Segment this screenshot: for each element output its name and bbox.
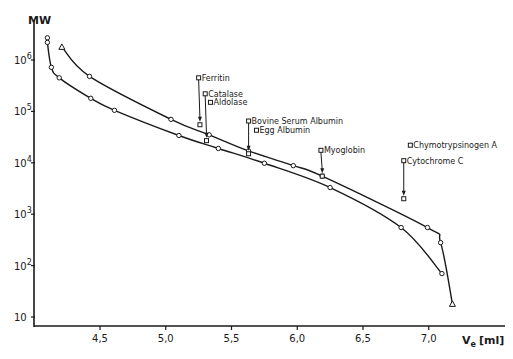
series-line-1 <box>62 47 453 304</box>
protein-label: Myoglobin <box>324 146 365 155</box>
protein-marker <box>208 100 212 104</box>
x-tick-label: 5,0 <box>158 333 174 344</box>
protein-label: Cytochrome C <box>407 157 464 166</box>
x-axis-label: Ve[ml] <box>462 334 504 349</box>
circle-marker <box>216 146 220 150</box>
circle-marker <box>112 108 116 112</box>
protein-label: Egg Albumin <box>259 126 310 135</box>
protein-marker <box>203 92 207 96</box>
protein-marker <box>247 119 251 123</box>
protein-elution-marker <box>402 197 406 201</box>
axes: 101021031041051064,55,05,56,06,57,0 <box>14 20 505 344</box>
protein-elution-marker <box>198 123 202 127</box>
arrow-head-icon <box>402 191 406 196</box>
protein-elution-marker <box>320 174 324 178</box>
circle-marker <box>49 65 53 69</box>
circle-marker <box>438 240 442 244</box>
circle-marker <box>262 161 266 165</box>
x-tick-label: 7,0 <box>421 333 437 344</box>
protein-marker <box>254 128 258 132</box>
y-tick-label: 105 <box>14 103 32 117</box>
protein-elution-marker <box>247 152 251 156</box>
chart: 101021031041051064,55,05,56,06,57,0 Ferr… <box>0 0 513 359</box>
x-tick-label: 6,5 <box>355 333 371 344</box>
arrow-head-icon <box>320 168 324 173</box>
circle-marker <box>440 271 444 275</box>
x-tick-label: 6,0 <box>289 333 305 344</box>
circle-marker <box>89 96 93 100</box>
y-tick-label: 102 <box>14 258 32 272</box>
x-tick-label: 5,5 <box>224 333 240 344</box>
y-tick-label: 103 <box>14 206 32 220</box>
protein-label: Bovine Serum Albumin <box>252 117 344 126</box>
circle-marker <box>425 225 429 229</box>
x-tick-label: 4,5 <box>92 333 108 344</box>
circle-marker <box>328 185 332 189</box>
protein-label: Ferritin <box>202 74 230 83</box>
arrow-head-icon <box>198 117 202 122</box>
arrow-line <box>321 152 322 170</box>
triangle-marker <box>449 301 455 307</box>
circle-marker <box>169 117 173 121</box>
protein-marker <box>197 76 201 80</box>
circle-marker <box>45 36 49 40</box>
triangle-marker <box>59 44 65 50</box>
circle-marker <box>399 225 403 229</box>
y-tick-label: 106 <box>14 52 32 66</box>
circle-marker <box>291 163 295 167</box>
arrow-line <box>205 96 206 135</box>
protein-marker <box>408 143 412 147</box>
y-tick-label: 104 <box>14 155 32 169</box>
y-tick-label: 10 <box>14 312 27 323</box>
curves <box>45 36 455 307</box>
circle-marker <box>57 76 61 80</box>
protein-label: Aldolase <box>213 98 247 107</box>
circle-marker <box>45 40 49 44</box>
protein-label: Chymotrypsinogen A <box>413 141 497 150</box>
arrow-line <box>199 80 200 119</box>
protein-elution-marker <box>205 139 209 143</box>
y-axis-label: MW <box>28 14 51 27</box>
protein-marker <box>319 148 323 152</box>
chart-svg: 101021031041051064,55,05,56,06,57,0 Ferr… <box>0 0 513 359</box>
annotations: FerritinCatalaseAldolaseBovine Serum Alb… <box>197 74 498 201</box>
circle-marker <box>87 74 91 78</box>
protein-marker <box>402 159 406 163</box>
circle-marker <box>177 133 181 137</box>
series-line-2 <box>47 38 442 274</box>
